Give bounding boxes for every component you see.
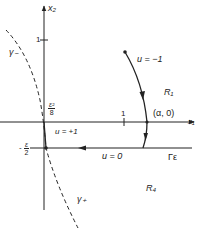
eps-denominator: 2 [24, 149, 29, 156]
u0-direction-arrow [78, 146, 86, 151]
y-tick-label: 1 [36, 36, 40, 44]
x1-axis-label: x₁ [188, 118, 195, 126]
u-minus-one-arrow [140, 91, 146, 100]
u-plus-one-label: u = +1 [55, 128, 78, 136]
neg-eps-over-2-label: ε 2 [24, 141, 29, 156]
u-zero-label: u = 0 [102, 152, 122, 161]
u-minus-one-label: u = −1 [137, 55, 163, 64]
region-r1-label: R₁ [164, 88, 173, 97]
eps2-numerator: ε² [48, 101, 55, 109]
region-r4-label: R₄ [146, 184, 156, 193]
x2-axis-label: x₂ [48, 4, 56, 13]
trajectory-start-dot [123, 50, 127, 54]
lower-arc-arrow [144, 133, 149, 141]
neg-sign: - [19, 144, 22, 152]
gamma-minus-label: γ₋ [9, 48, 19, 57]
gamma-plus-label: γ₊ [77, 195, 87, 204]
x-tick-label: 1 [121, 110, 125, 118]
switch-point-dot [44, 146, 48, 150]
alpha-point-label: (α, 0) [153, 109, 174, 118]
eps2-denominator: 8 [48, 109, 55, 116]
eps2-over-8-label: ε² 8 [48, 101, 55, 116]
phase-diagram [0, 0, 198, 241]
eps-numerator: ε [24, 141, 29, 149]
alpha-point-dot [145, 120, 148, 123]
gamma-eps-label: Γε [168, 153, 177, 162]
